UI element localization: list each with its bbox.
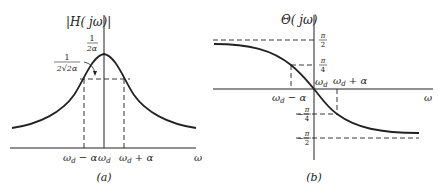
panel-a-magnitude: |H( jω)| 1 2α 1 2√2α ωd − α ωd ωd + α ω … bbox=[10, 15, 202, 184]
panel-b-tick-neg-pi-half-sign: − bbox=[297, 134, 304, 143]
panel-b-tick-pi-quarter-den: 4 bbox=[321, 66, 326, 74]
panel-b-tick-center: ωd bbox=[315, 76, 328, 89]
figure: |H( jω)| 1 2α 1 2√2α ωd − α ωd ωd + α ω … bbox=[0, 0, 443, 193]
panel-b-tick-lower: ωd − α bbox=[272, 92, 306, 105]
panel-a-caption: (a) bbox=[96, 171, 111, 184]
panel-b-phase: Θ( jω) π 2 π 4 − π 4 − π 2 ωd − α ωd ωd … bbox=[213, 13, 433, 184]
panel-b-tick-pi-quarter-num: π bbox=[320, 57, 326, 65]
panel-b-tick-neg-pi-quarter-num: π bbox=[304, 106, 310, 114]
panel-b-tick-neg-pi-half-den: 2 bbox=[305, 139, 309, 147]
panel-b-tick-neg-pi-half-num: π bbox=[304, 130, 310, 138]
panel-b-tick-pi-half-num: π bbox=[320, 32, 326, 40]
panel-a-halfpower-num: 1 bbox=[64, 53, 69, 62]
panel-a-x-axis-label: ω bbox=[194, 152, 202, 163]
panel-b-tick-neg-pi-quarter-den: 4 bbox=[305, 115, 310, 123]
panel-b-caption: (b) bbox=[306, 171, 322, 184]
panel-a-peak-num: 1 bbox=[89, 34, 94, 43]
panel-b-tick-pi-half-den: 2 bbox=[321, 41, 325, 49]
panel-a-y-axis-label: |H( jω)| bbox=[66, 15, 111, 29]
panel-b-tick-upper: ωd + α bbox=[333, 75, 367, 88]
panel-b-x-axis-label: ω bbox=[424, 92, 432, 103]
panel-a-tick-lower: ωd − α bbox=[63, 152, 97, 165]
panel-b-tick-neg-pi-quarter-sign: − bbox=[297, 110, 304, 119]
panel-a-tick-upper: ωd + α bbox=[119, 152, 153, 165]
arrowhead-icon bbox=[93, 71, 97, 76]
panel-a-peak-den: 2α bbox=[86, 44, 98, 53]
panel-a-tick-center: ωd bbox=[98, 152, 111, 165]
panel-a-halfpower-den: 2√2α bbox=[56, 64, 78, 73]
panel-b-y-axis-label: Θ( jω) bbox=[281, 13, 318, 27]
